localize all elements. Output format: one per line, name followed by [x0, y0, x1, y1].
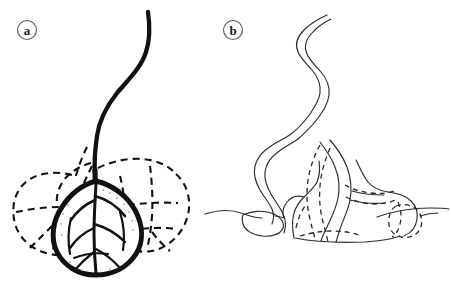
dashed-contour-3: [345, 185, 397, 193]
mound-base: [295, 236, 400, 242]
right-blob-tail: [420, 213, 438, 216]
lobe-right-divider-2: [147, 166, 152, 249]
lobe-right-outer: [138, 174, 189, 252]
mound-right-flank: [388, 192, 417, 236]
panel-a-label-text: a: [24, 23, 31, 38]
tube-cross-upper: [352, 191, 384, 195]
panel-b-group: [205, 15, 449, 242]
figure-drawing: a b: [0, 0, 451, 284]
dashed-contour-lower: [300, 231, 362, 236]
lobe-apex-left: [75, 147, 87, 179]
stalk: [95, 12, 150, 174]
tube-branch-right-outer: [320, 142, 339, 241]
panel-b-label: b: [224, 21, 243, 40]
panel-b-label-text: b: [229, 23, 236, 38]
dashed-contour-2: [320, 148, 330, 242]
figure-container: a b: [0, 0, 451, 284]
panel-a-group: [13, 12, 189, 275]
mound-right-upper: [356, 160, 388, 192]
lobe-right-upper: [98, 159, 176, 174]
tube-outer-edge: [254, 15, 327, 224]
tube-branch-right-inner: [330, 140, 351, 242]
mound-dashed-contours: [296, 145, 401, 242]
panel-a-label: a: [18, 21, 37, 40]
dashed-contour-left-inner: [296, 205, 306, 228]
